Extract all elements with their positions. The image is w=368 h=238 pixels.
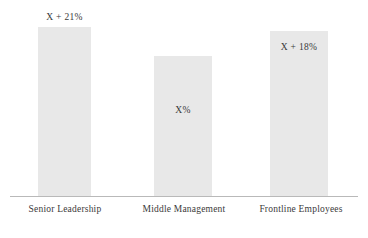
bar-senior-leadership[interactable] [38, 27, 91, 197]
plot-area: X + 21% X% X + 18% [0, 0, 368, 198]
bar-chart: X + 21% X% X + 18% Senior Leadership Mid… [0, 0, 368, 238]
category-label-middle-management: Middle Management [128, 204, 240, 214]
bar-group [0, 0, 368, 197]
x-axis-line [10, 196, 358, 197]
category-axis: Senior Leadership Middle Management Fron… [0, 204, 368, 224]
value-label-middle-management: X% [154, 105, 212, 115]
category-label-senior-leadership: Senior Leadership [14, 204, 116, 214]
category-label-frontline-employees: Frontline Employees [246, 204, 356, 214]
value-label-senior-leadership: X + 21% [38, 12, 91, 22]
bar-frontline-employees[interactable] [270, 31, 328, 197]
bar-middle-management[interactable] [154, 56, 212, 197]
value-label-frontline-employees: X + 18% [270, 42, 328, 52]
